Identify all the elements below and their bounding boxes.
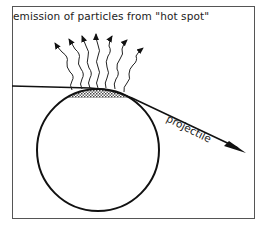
particle-arrow-icon: [114, 40, 127, 89]
particle-arrow-icon: [55, 43, 73, 90]
particle-arrow-icon: [96, 34, 100, 88]
projectile-arrowhead-icon: [224, 141, 246, 153]
particle-arrow-icon: [82, 36, 91, 88]
emitted-particles: [55, 34, 143, 92]
particle-arrow-icon: [105, 36, 112, 88]
target-nucleus-circle: [37, 89, 159, 211]
collision-diagram: [0, 0, 265, 230]
particle-arrow-icon: [124, 48, 143, 92]
projectile-trajectory: [12, 86, 246, 153]
